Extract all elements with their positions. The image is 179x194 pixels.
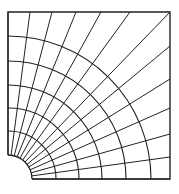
mesh-arc [8, 85, 102, 179]
radial-line [27, 46, 170, 164]
mesh-diagram [0, 0, 179, 194]
radial-line [11, 12, 30, 155]
radial-line [25, 12, 170, 162]
